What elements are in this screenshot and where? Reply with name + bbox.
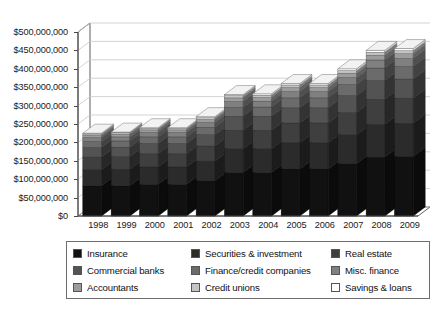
legend-label: Securities & investment xyxy=(205,248,302,259)
legend-swatch-icon xyxy=(73,283,82,292)
bar-2004[interactable] xyxy=(253,85,284,216)
legend-label: Insurance xyxy=(87,248,128,259)
legend-label: Savings & loans xyxy=(345,282,412,293)
legend-swatch-icon xyxy=(191,283,200,292)
bar-2000[interactable] xyxy=(139,119,170,216)
stacked-bar-chart: $0$50,000,000$100,000,000$150,000,000$20… xyxy=(0,0,440,311)
plot-area: $0$50,000,000$100,000,000$150,000,000$20… xyxy=(0,0,440,238)
bar-2007[interactable] xyxy=(338,60,369,216)
x-tick-label-2009: 2009 xyxy=(400,220,420,231)
x-tick-label-2004: 2004 xyxy=(258,220,278,231)
legend-item[interactable]: Accountants xyxy=(73,282,191,293)
plot-graphics xyxy=(0,0,440,238)
legend-label: Credit unions xyxy=(205,282,260,293)
legend-item[interactable]: Real estate xyxy=(331,248,424,259)
legend-label: Finance/credit companies xyxy=(205,265,311,276)
legend-label: Accountants xyxy=(87,282,138,293)
legend-item[interactable]: Credit unions xyxy=(191,282,331,293)
x-tick-label-2002: 2002 xyxy=(201,220,221,231)
bar-1999[interactable] xyxy=(111,123,142,216)
x-tick-label-1999: 1999 xyxy=(116,220,136,231)
legend-swatch-icon xyxy=(331,266,340,275)
legend-item[interactable]: Misc. finance xyxy=(331,265,424,276)
bar-2003[interactable] xyxy=(224,86,255,216)
x-tick-label-2001: 2001 xyxy=(173,220,193,231)
x-tick-label-2008: 2008 xyxy=(371,220,391,231)
bar-2002[interactable] xyxy=(196,108,227,216)
bar-2008[interactable] xyxy=(366,41,397,216)
legend-swatch-icon xyxy=(191,249,200,258)
legend-label: Misc. finance xyxy=(345,265,399,276)
legend-label: Real estate xyxy=(345,248,392,259)
x-tick-label-2007: 2007 xyxy=(343,220,363,231)
bar-2005[interactable] xyxy=(281,75,312,216)
bar-1998[interactable] xyxy=(83,124,114,216)
legend-swatch-icon xyxy=(331,283,340,292)
legend-swatch-icon xyxy=(191,266,200,275)
x-tick-label-2005: 2005 xyxy=(286,220,306,231)
x-tick-label-1998: 1998 xyxy=(88,220,108,231)
legend-item[interactable]: Securities & investment xyxy=(191,248,331,259)
legend-swatch-icon xyxy=(331,249,340,258)
x-tick-label-2000: 2000 xyxy=(145,220,165,231)
legend: InsuranceSecurities & investmentReal est… xyxy=(66,241,430,299)
x-axis: 1998199920002001200220032004200520062007… xyxy=(0,216,440,236)
legend-swatch-icon xyxy=(73,249,82,258)
x-tick-label-2006: 2006 xyxy=(315,220,335,231)
legend-item[interactable]: Insurance xyxy=(73,248,191,259)
legend-swatch-icon xyxy=(73,266,82,275)
bar-2009[interactable] xyxy=(394,40,425,216)
bar-2001[interactable] xyxy=(168,119,199,216)
bars xyxy=(83,40,425,216)
legend-grid: InsuranceSecurities & investmentReal est… xyxy=(73,245,424,296)
legend-item[interactable]: Commercial banks xyxy=(73,265,191,276)
legend-item[interactable]: Finance/credit companies xyxy=(191,265,331,276)
bar-2006[interactable] xyxy=(309,75,340,216)
legend-label: Commercial banks xyxy=(87,265,164,276)
legend-item[interactable]: Savings & loans xyxy=(331,282,424,293)
x-tick-label-2003: 2003 xyxy=(230,220,250,231)
